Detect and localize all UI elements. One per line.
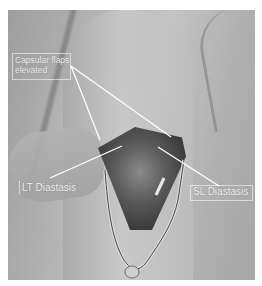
- pointer-line-sl: [158, 147, 219, 186]
- pointer-line-capsular-left: [71, 66, 100, 140]
- capsular-flaps-label-line2: elevated: [15, 65, 69, 75]
- pointer-line-lt: [50, 146, 122, 178]
- lt-diastasis-label: LT Diastasis: [22, 183, 76, 193]
- sl-diastasis-label: SL Diastasis: [193, 187, 248, 197]
- capsular-flaps-label-line1: Capsular flaps: [15, 55, 69, 65]
- pointer-line-capsular-right: [71, 66, 171, 137]
- capsular-flaps-label: Capsular flaps elevated: [15, 55, 69, 75]
- annotation-lines: [0, 0, 262, 286]
